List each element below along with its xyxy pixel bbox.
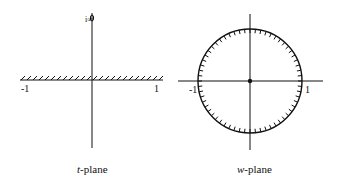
t-plane-caption: t-plane xyxy=(77,163,108,175)
t-plane-tick-minus-one: -1 xyxy=(21,83,29,94)
w-plane-tick-one: 1 xyxy=(305,84,310,95)
t-plane-diagram: i∞ -1 1 t-plane xyxy=(20,13,163,175)
w-plane-tick-minus-one: -1 xyxy=(189,84,197,95)
w-plane-diagram: -1 1 w-plane xyxy=(178,14,323,175)
t-plane-top-label: i∞ xyxy=(85,15,93,24)
w-plane-origin-dot xyxy=(248,79,252,83)
t-plane-tick-one: 1 xyxy=(154,83,159,94)
figure-canvas: i∞ -1 1 t-plane -1 1 w-plane xyxy=(0,0,339,185)
w-plane-caption: w-plane xyxy=(237,163,272,175)
